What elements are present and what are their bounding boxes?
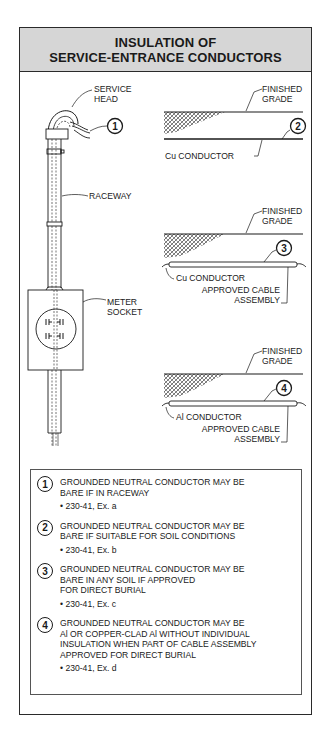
note-4-ref: • 230-41, Ex. d [60,663,256,674]
notes-box: 1 GROUNDED NEUTRAL CONDUCTOR MAY BE BARE… [30,469,302,695]
cable-label-4: APPROVED CABLE [202,424,281,434]
note-2-line-2: BARE IF SUITABLE FOR SOIL CONDITIONS [60,531,244,542]
note-3-line-1: GROUNDED NEUTRAL CONDUCTOR MAY BE [60,564,244,575]
note-4-line-3: INSULATION WHEN PART OF CABLE ASSEMBLY [60,639,256,650]
note-3-line-3: FOR DIRECT BURIAL [60,585,244,596]
raceway-label: RACEWAY [89,191,132,201]
direct-burial-diagram-3: FINISHED GRADE 3 Cu CONDUCTOR APPROVED C… [162,206,306,305]
callout-1-number: 1 [112,121,118,132]
grade-label-4: FINISHED [262,346,302,356]
callout-2-number: 2 [295,121,301,132]
service-head-label-2: HEAD [94,94,118,104]
conductor-label-3: Cu CONDUCTOR [176,273,245,283]
note-2-line-1: GROUNDED NEUTRAL CONDUCTOR MAY BE [60,521,244,532]
cable-label-3b: ASSEMBLY [234,295,280,305]
note-4-line-2: Al OR COPPER-CLAD Al WITHOUT INDIVIDUAL [60,629,256,640]
direct-burial-diagram-2: FINISHED GRADE 2 Cu CONDUCTOR [164,84,306,161]
direct-burial-diagram-4: FINISHED GRADE 4 Al CONDUCTOR APPROVED C… [162,346,306,444]
grade-label-4b: GRADE [262,356,293,366]
meter-socket-label-2: SOCKET [107,307,143,317]
note-3-line-2: BARE IN ANY SOIL IF APPROVED [60,575,244,586]
note-1-number: 1 [37,476,53,492]
note-2-ref: • 230-41, Ex. b [60,545,244,556]
conductor-label-2: Cu CONDUCTOR [165,151,234,161]
note-3-number: 3 [37,563,53,579]
note-4-number: 4 [37,617,53,633]
note-3: 3 GROUNDED NEUTRAL CONDUCTOR MAY BE BARE… [37,564,295,609]
note-4-line-1: GROUNDED NEUTRAL CONDUCTOR MAY BE [60,618,256,629]
callout-3-number: 3 [281,243,287,254]
note-1-line-2: BARE IF IN RACEWAY [60,488,244,499]
note-2-number: 2 [37,520,53,536]
conductor-label-4: Al CONDUCTOR [176,412,242,422]
note-1: 1 GROUNDED NEUTRAL CONDUCTOR MAY BE BARE… [37,477,295,512]
callout-4-number: 4 [281,383,287,394]
note-2: 2 GROUNDED NEUTRAL CONDUCTOR MAY BE BARE… [37,521,295,556]
note-4-line-4: APPROVED FOR DIRECT BURIAL [60,650,256,661]
cable-label-3: APPROVED CABLE [202,285,281,295]
note-3-ref: • 230-41, Ex. c [60,599,244,610]
grade-label-3b: GRADE [262,216,293,226]
service-mast [28,111,90,446]
meter-socket-label: METER [107,297,137,307]
cable-label-4b: ASSEMBLY [234,434,280,444]
note-1-ref: • 230-41, Ex. a [60,501,244,512]
note-1-line-1: GROUNDED NEUTRAL CONDUCTOR MAY BE [60,477,244,488]
grade-label-3: FINISHED [262,206,302,216]
note-4: 4 GROUNDED NEUTRAL CONDUCTOR MAY BE Al O… [37,618,295,674]
grade-label-2: FINISHED [262,84,302,94]
service-head-label: SERVICE [94,84,132,94]
grade-label-2b: GRADE [262,94,293,104]
meter-socket-circle [36,309,76,349]
